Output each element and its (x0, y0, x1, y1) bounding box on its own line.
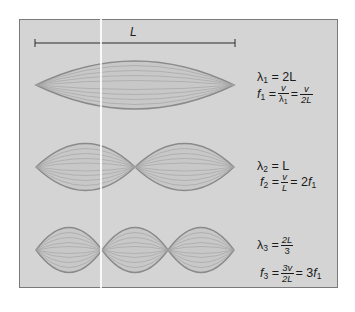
numerator: 2L (281, 235, 294, 246)
fraction-2L-over-3: 2L3 (281, 235, 294, 256)
denominator: 3 (281, 246, 294, 256)
fraction-v-over-lambda1: vλ1 (278, 83, 289, 105)
frequency-1-equation: f1 = vλ1 = v2L (257, 87, 315, 101)
length-dimension-line (35, 39, 235, 47)
equals-sign: = (291, 88, 298, 101)
f-subscript: 1 (260, 93, 265, 102)
scan-seam-line (100, 0, 102, 312)
f-subscript: 3 (263, 272, 268, 281)
denominator: 2L (300, 95, 313, 105)
equals-sign: = (272, 176, 279, 189)
denominator: 2L (281, 274, 294, 284)
result-subscript: 1 (317, 272, 322, 281)
wave-mode-2 (36, 144, 234, 191)
mode-1-equations: λ1 = 2L f1 = vλ1 = v2L (257, 70, 315, 101)
f-subscript: 2 (263, 181, 268, 190)
lambda-3-equation: λ3 = 2L3 (257, 233, 322, 257)
wave-mode-3 (36, 228, 234, 273)
wave-mode-1 (36, 61, 234, 109)
equals-sign: = (271, 239, 278, 252)
fraction-3v-over-2L: 3v2L (281, 263, 294, 284)
mode-2-equations: λ2 = L f2 = vL = 2f1 (257, 159, 316, 189)
fraction-v-over-L: vL (281, 172, 288, 193)
result-coefficient: = 3 (296, 267, 314, 280)
lambda-subscript: 3 (263, 244, 268, 253)
mode-3-equations: λ3 = 2L3 f3 = 3v2L = 3f1 (257, 233, 322, 285)
denominator: L (281, 183, 288, 193)
result-coefficient: = 2 (290, 176, 308, 189)
equals-sign: = (269, 88, 276, 101)
numerator: v (300, 84, 313, 95)
result-subscript: 1 (312, 181, 317, 190)
frequency-3-equation: f3 = 3v2L = 3f1 (260, 261, 322, 285)
numerator: 3v (281, 263, 294, 274)
denominator-subscript: 1 (284, 98, 288, 105)
frequency-2-equation: f2 = vL = 2f1 (260, 175, 316, 189)
lambda-subscript: 2 (263, 165, 268, 174)
numerator: v (281, 172, 288, 183)
fraction-v-over-2L: v2L (300, 84, 313, 105)
lambda-subscript: 1 (263, 76, 268, 85)
length-label: L (130, 25, 137, 39)
equals-sign: = (272, 267, 279, 280)
